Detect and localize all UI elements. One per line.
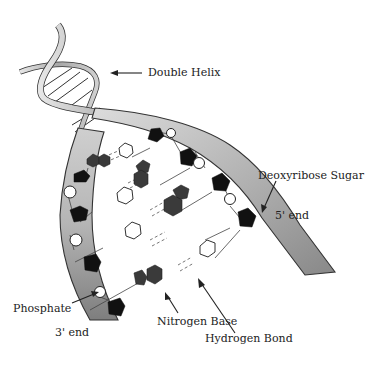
label-three-prime-end: 3' end [55,327,89,338]
base-pair-5 [134,265,162,285]
label-deoxyribose-sugar: Deoxyribose Sugar [258,170,364,181]
label-nitrogen-base: Nitrogen Base [157,316,237,327]
base-pair-3 [125,185,189,239]
base-pair-2 [117,160,150,204]
label-five-prime-end: 5' end [275,210,309,221]
base-pair-4 [200,240,215,257]
label-double-helix: Double Helix [148,67,220,78]
label-phosphate: Phosphate [13,303,71,314]
label-hydrogen-bond: Hydrogen Bond [205,333,293,344]
